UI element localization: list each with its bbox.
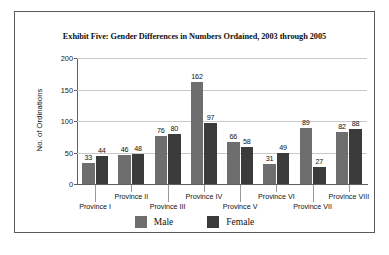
chart-legend: Male Female <box>15 216 374 228</box>
y-axis-title: No. of Ordinations <box>35 89 44 152</box>
bar-value-label: 76 <box>157 126 165 135</box>
chart-title: Exhibit Five: Gender Differences in Numb… <box>15 32 374 41</box>
bar-male-3: 76 <box>155 136 168 184</box>
x-category-label: Province VI <box>258 192 295 201</box>
y-tick-mark <box>74 184 77 185</box>
chart-figure-frame: Exhibit Five: Gender Differences in Numb… <box>14 11 375 233</box>
x-tick-mark <box>313 185 314 202</box>
x-tick-mark <box>131 185 132 192</box>
gridline <box>77 58 367 59</box>
bar-female-2: 48 <box>132 154 145 184</box>
legend-swatch-male <box>135 216 147 228</box>
x-tick-mark <box>276 185 277 192</box>
bar-value-label: 89 <box>302 118 310 127</box>
x-axis-line <box>77 184 368 185</box>
bar-value-label: 31 <box>266 154 274 163</box>
bar-female-3: 80 <box>168 134 181 184</box>
x-category-label: Province V <box>223 202 258 211</box>
y-tick-label: 150 <box>61 85 73 94</box>
bar-value-label: 48 <box>134 144 142 153</box>
bar-value-label: 46 <box>121 145 129 154</box>
x-tick-mark <box>204 185 205 192</box>
y-tick-label: 100 <box>61 117 73 126</box>
bar-female-7: 27 <box>313 167 326 184</box>
bar-value-label: 88 <box>352 119 360 128</box>
bar-male-8: 82 <box>336 132 349 184</box>
bar-value-label: 82 <box>338 122 346 131</box>
legend-swatch-female <box>207 216 219 228</box>
bar-female-4: 97 <box>204 123 217 184</box>
x-category-label: Province III <box>150 202 186 211</box>
bar-value-label: 66 <box>229 132 237 141</box>
bar-value-label: 49 <box>279 143 287 152</box>
bar-male-7: 89 <box>300 128 313 184</box>
bar-male-6: 31 <box>263 164 276 184</box>
x-category-label: Province I <box>79 202 111 211</box>
bar-male-1: 33 <box>82 163 95 184</box>
y-tick-mark <box>74 90 77 91</box>
bar-male-2: 46 <box>118 155 131 184</box>
bar-female-5: 58 <box>241 147 254 184</box>
bar-value-label: 58 <box>243 137 251 146</box>
x-tick-mark <box>168 185 169 202</box>
bar-female-8: 88 <box>349 129 362 184</box>
y-tick-label: 50 <box>65 148 73 157</box>
x-category-label: Province IV <box>185 192 222 201</box>
y-tick-mark <box>74 153 77 154</box>
bar-value-label: 97 <box>207 113 215 122</box>
legend-item-male: Male <box>135 216 174 228</box>
bar-value-label: 44 <box>98 146 106 155</box>
y-tick-label: 200 <box>61 54 73 63</box>
x-category-label: Province II <box>114 192 148 201</box>
gridline <box>77 90 367 91</box>
legend-item-female: Female <box>207 216 254 228</box>
bar-value-label: 27 <box>315 157 323 166</box>
x-tick-mark <box>349 185 350 192</box>
gridline <box>77 121 367 122</box>
bar-value-label: 33 <box>84 153 92 162</box>
bar-male-5: 66 <box>227 142 240 184</box>
legend-label-female: Female <box>226 217 254 227</box>
bar-female-1: 44 <box>96 156 109 184</box>
x-tick-mark <box>240 185 241 202</box>
x-category-label: Province VIII <box>329 192 370 201</box>
bar-male-4: 162 <box>191 82 204 184</box>
y-tick-label: 0 <box>69 180 73 189</box>
plot-area: 0501001502003344464876801629766583149892… <box>77 58 367 184</box>
x-category-label: Province VII <box>293 202 332 211</box>
x-tick-mark <box>95 185 96 202</box>
legend-label-male: Male <box>154 217 174 227</box>
y-tick-mark <box>74 121 77 122</box>
bar-female-6: 49 <box>277 153 290 184</box>
y-tick-mark <box>74 58 77 59</box>
bar-value-label: 162 <box>191 72 203 81</box>
bar-value-label: 80 <box>170 124 178 133</box>
